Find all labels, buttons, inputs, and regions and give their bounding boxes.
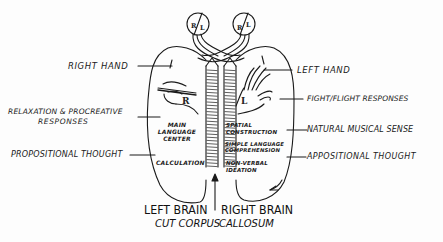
callosum-hatch-line [207, 89, 217, 90]
label-propositional-thought: PROPOSITIONAL THOUGHT [11, 151, 123, 159]
callosum-hatch-line [207, 153, 217, 154]
callosum-hatch-line [225, 99, 235, 100]
callosum-hatch-line [225, 83, 235, 84]
callosum-hatch-line [225, 137, 235, 138]
function-text: IDEATION [226, 167, 268, 174]
callosum-hatch-line [207, 163, 217, 164]
label-relaxation-line1: RELAXATION & PROCREATIVE [8, 108, 123, 116]
callosum-hatch-line [207, 166, 217, 167]
function-spatial-construction: SPATIAL CONSTRUCTION [226, 122, 277, 135]
callosum-hatch-line [225, 76, 235, 77]
function-non-verbal-ideation: NON-VERBAL IDEATION [226, 160, 268, 173]
callosum-hatch-line [207, 131, 217, 132]
optic-nerve-left [193, 34, 244, 62]
callosum-hatch-line [207, 124, 217, 125]
function-text: SPATIAL [226, 122, 277, 129]
callosum-hatch-line [225, 112, 235, 113]
callosum-hatch-line [225, 89, 235, 90]
label-cut-corpus: CUT CORPUS [155, 219, 220, 229]
function-simple-language: SIMPLE LANGUAGE COMPREHENSION [225, 141, 284, 154]
function-text: CONSTRUCTION [226, 129, 277, 136]
right-eye-field-r: R [237, 25, 242, 32]
callosum-hatch-line [225, 105, 235, 106]
left-hand-letter: L [241, 97, 247, 106]
callosum-hatch-line [207, 128, 217, 129]
label-callosum: CALLOSUM [219, 219, 274, 229]
function-text: MAIN [152, 121, 202, 128]
callosum-hatch-line [225, 108, 235, 109]
callosum-hatch-left [207, 70, 217, 167]
callosum-hatch-line [225, 86, 235, 87]
function-text: LANGUAGE [152, 128, 202, 135]
callosum-hatch-line [225, 102, 235, 103]
callosum-hatch-line [207, 96, 217, 97]
label-left-hand: LEFT HAND [297, 66, 350, 75]
callosum-hatch-line [207, 86, 217, 87]
function-calculation: CALCULATION [156, 159, 205, 166]
callosum-hatch-line [207, 115, 217, 116]
optic-nerve-right [198, 34, 249, 62]
callosum-hatch-line [225, 115, 235, 116]
callosum-hatch-line [207, 83, 217, 84]
function-text: COMPREHENSION [225, 147, 284, 153]
callosum-hatch-line [207, 112, 217, 113]
callosum-hatch-line [207, 76, 217, 77]
label-appositional-thought: APPOSITIONAL THOUGHT [307, 153, 416, 161]
right-hand-with-pen-icon [158, 82, 198, 114]
callosum-hatch-line [207, 134, 217, 135]
right-eye-field-l: L [246, 22, 251, 29]
function-main-language-center: MAIN LANGUAGE CENTER [152, 121, 202, 143]
left-eye-field-l: L [200, 25, 205, 32]
split-brain-diagram: R L R L R L RIGHT HAND RELAXATION & PROC… [0, 0, 443, 242]
callosum-hatch-line [207, 73, 217, 74]
left-hand-icon [236, 66, 272, 114]
callosum-hatch-line [207, 118, 217, 119]
callosum-hatch-line [225, 80, 235, 81]
callosum-hatch-line [207, 160, 217, 161]
callosum-hatch-line [207, 144, 217, 145]
callosum-hatch-line [207, 80, 217, 81]
callosum-hatch-line [207, 105, 217, 106]
callosum-hatch-line [225, 92, 235, 93]
label-right-hand: RIGHT HAND [68, 62, 128, 71]
function-text: NON-VERBAL [226, 160, 268, 167]
left-eye-field-r: R [191, 23, 196, 30]
callosum-hatch-line [207, 92, 217, 93]
callosum-hatch-line [225, 96, 235, 97]
callosum-hatch-line [207, 99, 217, 100]
callosum-hatch-line [207, 140, 217, 141]
callosum-hatch-line [207, 156, 217, 157]
callosum-hatch-line [207, 121, 217, 122]
callosum-hatch-line [225, 156, 235, 157]
callosum-hatch-line [207, 70, 217, 71]
callosum-hatch-line [207, 137, 217, 138]
callosum-hatch-line [207, 147, 217, 148]
callosum-hatch-line [225, 70, 235, 71]
label-fight-flight: FIGHT/FLIGHT RESPONSES [307, 95, 408, 103]
callosum-hatch-line [225, 118, 235, 119]
label-right-brain: RIGHT BRAIN [221, 203, 293, 216]
callosum-hatch-line [225, 73, 235, 74]
function-text: CENTER [152, 135, 202, 142]
label-relaxation-line2: RESPONSES [38, 118, 88, 126]
label-left-brain: LEFT BRAIN [144, 203, 207, 216]
callosum-hatch-line [207, 102, 217, 103]
label-natural-musical-sense: NATURAL MUSICAL SENSE [307, 126, 413, 134]
callosum-hatch-line [207, 108, 217, 109]
callosum-hatch-line [207, 150, 217, 151]
right-hand-letter: R [182, 97, 189, 106]
